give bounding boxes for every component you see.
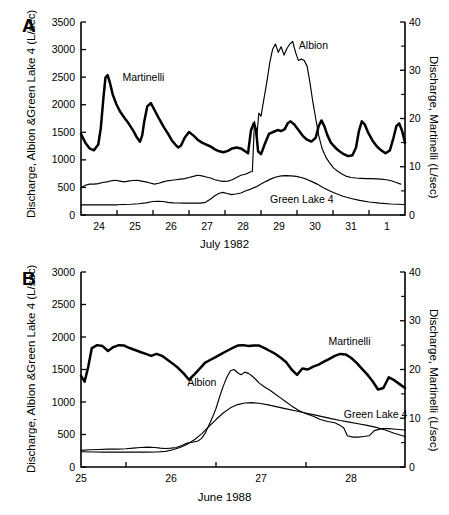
y-ticklabel-right: 20: [409, 363, 421, 375]
y-ticklabel-left: 1500: [52, 363, 76, 375]
x-ticklabel: 31: [345, 220, 357, 232]
y-ticklabel-left: 500: [57, 181, 75, 193]
series-martinelli: [81, 75, 405, 156]
series-martinelli: [81, 345, 405, 389]
y-ticklabel-left: 1500: [52, 126, 76, 138]
series-green-lake-4: [81, 176, 405, 205]
y-ticklabel-left: 1000: [52, 153, 76, 165]
curve-label-albion: Albion: [187, 376, 216, 388]
y-ticklabel-right: 0: [409, 461, 415, 473]
y-ticklabel-left: 0: [69, 209, 75, 221]
y-ticklabel-left: 2000: [52, 98, 76, 110]
y-ticklabel-left: 2500: [52, 298, 76, 310]
y-ticklabel-left: 0: [69, 461, 75, 473]
curve-label-martinelli: Martinelli: [122, 71, 164, 83]
x-ticklabel: 26: [165, 472, 177, 484]
panel-a-plot: 0500100015002000250030003500010203040242…: [0, 0, 449, 258]
curve-label-green-lake-4: Green Lake 4: [344, 408, 408, 420]
panel-b: B Discharge, Albion &Green Lake 4 (L/sec…: [0, 257, 449, 515]
curve-label-martinelli: Martinelli: [329, 335, 371, 347]
x-ticklabel: 25: [75, 472, 87, 484]
y-ticklabel-right: 10: [409, 160, 421, 172]
y-ticklabel-right: 40: [409, 266, 421, 278]
x-ticklabel: 24: [93, 220, 105, 232]
curve-label-albion: Albion: [299, 39, 328, 51]
y-ticklabel-right: 40: [409, 16, 421, 28]
y-ticklabel-left: 3000: [52, 266, 76, 278]
x-ticklabel: 26: [165, 220, 177, 232]
y-ticklabel-left: 2000: [52, 331, 76, 343]
y-ticklabel-right: 30: [409, 314, 421, 326]
x-ticklabel: 27: [201, 220, 213, 232]
x-ticklabel: 28: [237, 220, 249, 232]
series-albion: [81, 41, 401, 188]
curve-label-green-lake-4: Green Lake 4: [270, 193, 334, 205]
x-ticklabel: 30: [309, 220, 321, 232]
plot-frame: [81, 272, 405, 467]
x-ticklabel: 29: [273, 220, 285, 232]
x-ticklabel: 27: [255, 472, 267, 484]
y-ticklabel-left: 500: [57, 428, 75, 440]
y-ticklabel-right: 0: [409, 209, 415, 221]
y-ticklabel-right: 10: [409, 412, 421, 424]
y-ticklabel-left: 2500: [52, 71, 76, 83]
y-ticklabel-left: 3500: [52, 16, 76, 28]
panel-a: A Discharge, Albion &Green Lake 4 (L/sec…: [0, 0, 449, 258]
y-ticklabel-right: 30: [409, 64, 421, 76]
y-ticklabel-left: 1000: [52, 396, 76, 408]
y-ticklabel-right: 20: [409, 112, 421, 124]
x-ticklabel: 25: [129, 220, 141, 232]
plot-frame: [81, 22, 405, 215]
x-ticklabel: 28: [345, 472, 357, 484]
panel-b-plot: 0500100015002000250030000102030402526272…: [0, 257, 449, 515]
y-ticklabel-left: 3000: [52, 43, 76, 55]
x-ticklabel: 1: [384, 220, 390, 232]
